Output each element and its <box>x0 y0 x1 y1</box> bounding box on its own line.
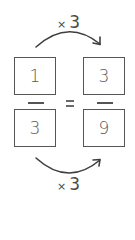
right-denominator-box: 9 <box>83 109 125 147</box>
right-numerator-box: 3 <box>83 57 125 95</box>
bottom-multiplier-label: × 3 <box>57 174 80 194</box>
right-denominator: 9 <box>99 118 110 138</box>
equals-bottom-line <box>66 105 74 107</box>
left-fraction-bar <box>28 102 44 104</box>
right-numerator: 3 <box>99 66 110 86</box>
left-denominator-box: 3 <box>14 109 56 147</box>
top-curved-arrow-icon <box>36 32 100 47</box>
bottom-times-symbol: × <box>57 180 66 193</box>
bottom-curved-arrow-icon <box>36 158 100 173</box>
bottom-factor: 3 <box>69 174 80 194</box>
equals-top-line <box>66 100 74 102</box>
left-numerator: 1 <box>30 66 41 86</box>
left-numerator-box: 1 <box>14 57 56 95</box>
left-denominator: 3 <box>30 118 41 138</box>
right-fraction-bar <box>97 102 113 104</box>
